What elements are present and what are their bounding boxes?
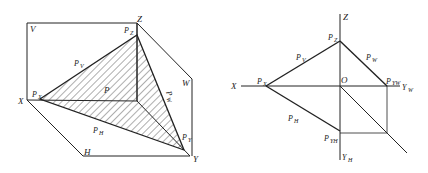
label-pz: P Z [327,33,338,43]
label-v: V [30,24,37,34]
label-yw: Y W [402,83,414,93]
svg-text:P: P [323,134,329,143]
svg-text:P: P [385,77,391,86]
label-o: O [341,75,348,85]
label-w: W [182,78,191,88]
label-pyw: P YW [385,77,401,86]
label-py: P Y [181,133,192,143]
label-h: H [83,147,91,157]
svg-text:Z: Z [130,30,134,36]
svg-text:H: H [98,130,104,136]
label-z: Z [343,12,349,22]
label-ph: P H [92,126,104,136]
label-ph: P H [287,114,299,124]
svg-text:Y: Y [188,137,192,143]
svg-text:W: W [408,87,414,93]
label-x: X [230,81,237,91]
svg-text:YW: YW [392,80,401,86]
svg-text:P: P [295,53,301,62]
label-pyh: P YH [323,134,338,144]
svg-text:H: H [293,118,299,124]
label-y: Y [193,154,199,164]
projection-figure: Z X O Y W Y H P Z P V P W P X P YW [230,12,414,163]
plane-p-triangle [40,35,184,150]
label-px: P X [31,90,42,100]
svg-text:P: P [287,114,293,123]
svg-text:P: P [365,53,371,62]
svg-text:X: X [262,81,267,87]
svg-text:YH: YH [330,138,338,144]
label-pv: P V [295,53,307,63]
svg-text:P: P [92,126,98,135]
svg-text:W: W [372,57,378,63]
label-pv: P V [73,59,85,69]
svg-text:P: P [327,33,333,42]
miter-line [340,86,407,153]
label-z: Z [137,14,143,24]
label-yh: Y H [342,153,353,163]
trace-ph [266,86,340,131]
trace-pv [266,41,340,86]
svg-text:P: P [123,26,129,35]
diagram-canvas: V Z W X H Y P P Z P V P X P H P W P Y [0,0,428,173]
svg-text:P: P [256,77,262,86]
svg-text:P: P [164,89,175,98]
svg-text:X: X [37,94,42,100]
label-x: X [17,96,24,106]
label-p: P [103,85,110,95]
svg-text:W: W [165,97,173,105]
svg-text:H: H [347,157,353,163]
svg-text:P: P [73,59,79,68]
label-px: P X [256,77,267,87]
label-pw: P W [365,53,378,63]
svg-text:P: P [31,90,37,99]
label-pz: P Z [123,26,134,36]
svg-text:V: V [80,63,85,69]
pictorial-figure: V Z W X H Y P P Z P V P X P H P W P Y [17,14,199,164]
svg-text:P: P [181,133,187,142]
